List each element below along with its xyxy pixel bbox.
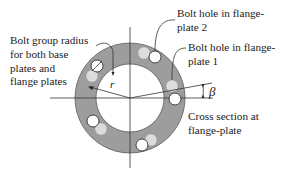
- label-bolt-hole-plate1: Bolt hole in flange- plate 1: [188, 41, 276, 67]
- label-bolt-group-radius: Bolt group radius for both base plates a…: [10, 34, 88, 87]
- bolt-hole-plate2: [87, 115, 99, 127]
- svg-text:Bolt hole in flange-: Bolt hole in flange-: [177, 7, 265, 19]
- svg-text:plates and: plates and: [10, 62, 55, 74]
- svg-text:Cross section at: Cross section at: [188, 110, 260, 122]
- svg-text:plate 2: plate 2: [177, 21, 207, 33]
- svg-text:flange-plate: flange-plate: [188, 124, 241, 136]
- svg-text:plate 1: plate 1: [188, 55, 218, 67]
- angle-symbol: β: [208, 84, 216, 99]
- label-bolt-hole-plate2: Bolt hole in flange- plate 2: [177, 7, 265, 33]
- flange-plate-diagram: r β Bolt group radius for both base plat…: [0, 0, 281, 171]
- svg-text:Bolt group radius: Bolt group radius: [10, 34, 88, 46]
- svg-text:flange plates: flange plates: [10, 75, 67, 87]
- angle-arrowhead-top: [202, 84, 205, 88]
- leader-bolt-hole-plate2: [155, 20, 175, 51]
- leader-arrowhead: [112, 72, 115, 76]
- radius-symbol: r: [110, 78, 115, 90]
- svg-text:Bolt hole in flange-: Bolt hole in flange-: [188, 41, 276, 53]
- bolt-hole-plate2: [169, 93, 181, 105]
- angle-arrowhead-bottom: [202, 95, 205, 99]
- bolt-hole-plate2: [149, 51, 161, 63]
- label-cross-section: Cross section at flange-plate: [188, 110, 260, 136]
- bolt-hole-plate1: [138, 47, 150, 59]
- bolt-hole-plate2: [136, 139, 148, 151]
- svg-text:for both base: for both base: [10, 48, 68, 60]
